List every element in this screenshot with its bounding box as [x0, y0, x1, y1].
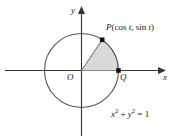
label-p-sin: sin — [136, 22, 147, 32]
unit-circle-figure: P(cos t, sin t) x2 + y2 = 1 O Q x y — [0, 0, 175, 139]
label-point-p: P(cos t, sin t) — [106, 23, 154, 32]
label-p-close-paren: ) — [151, 22, 154, 32]
equation-plus: + — [121, 109, 126, 119]
label-origin: O — [67, 73, 74, 82]
label-x-axis: x — [163, 73, 167, 82]
equation-y-exponent: 2 — [132, 107, 135, 114]
shaded-sector — [82, 40, 119, 71]
label-p-cos: cos — [115, 22, 127, 32]
label-point-q: Q — [120, 73, 127, 82]
label-y-axis: y — [71, 6, 75, 15]
label-circle-equation: x2 + y2 = 1 — [111, 108, 149, 119]
equation-value: 1 — [145, 109, 150, 119]
y-axis-arrowhead — [78, 6, 85, 14]
equation-x-exponent: 2 — [115, 107, 118, 114]
equation-equals: = — [137, 109, 142, 119]
point-marker-p — [100, 38, 105, 43]
